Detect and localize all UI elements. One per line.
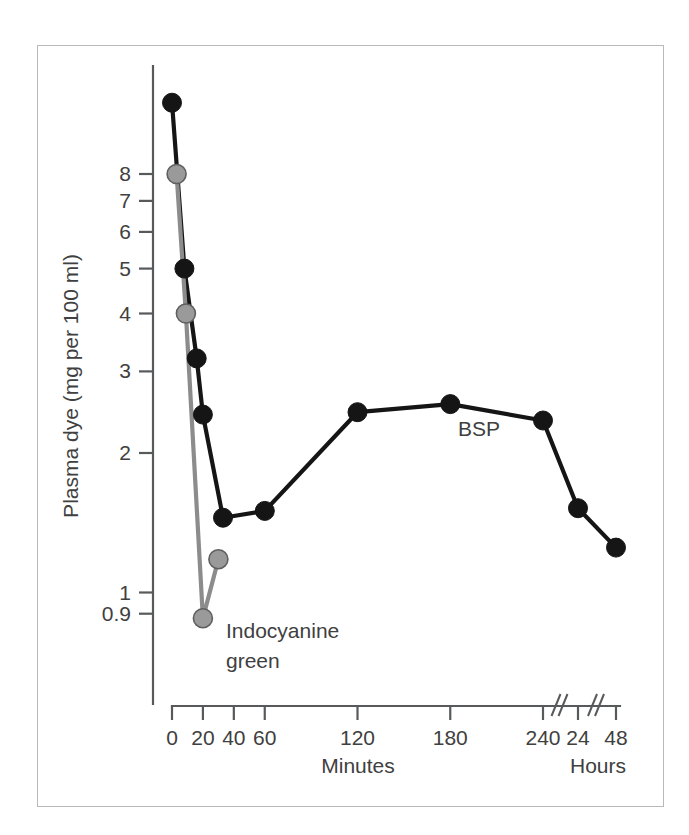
data-point-bsp-4	[214, 508, 233, 527]
x-tick-label-0: 0	[166, 726, 178, 749]
chart-plot-area: 876543210.9 02040601201802402448 BSP Ind…	[38, 46, 665, 808]
x-tick-label-120: 120	[340, 726, 375, 749]
x-tick-label-180: 180	[433, 726, 468, 749]
data-series-layer	[163, 93, 626, 628]
x-tick-label-24: 24	[566, 726, 590, 749]
series-label-indocyanine-green-line2: green	[226, 649, 280, 672]
data-point-bsp-2	[187, 349, 206, 368]
series-line-bsp	[172, 103, 616, 548]
data-point-bsp-7	[441, 395, 460, 414]
series-label-indocyanine-green-line1: Indocyanine	[226, 619, 339, 642]
y-axis-ticks: 876543210.9	[102, 162, 153, 625]
y-tick-label-8: 8	[119, 162, 131, 185]
data-point-indocyanine-green-0	[167, 165, 186, 184]
x-axis-title: Minutes	[321, 754, 395, 777]
data-point-indocyanine-green-1	[176, 304, 195, 323]
x-tick-label-40: 40	[222, 726, 245, 749]
data-point-bsp-3	[193, 405, 212, 424]
y-tick-label-0.9: 0.9	[102, 602, 131, 625]
data-point-bsp-9	[569, 499, 588, 518]
data-point-bsp-8	[534, 411, 553, 430]
data-point-indocyanine-green-2	[193, 609, 212, 628]
x-tick-label-20: 20	[191, 726, 214, 749]
data-point-bsp-6	[348, 403, 367, 422]
series-label-bsp: BSP	[458, 417, 500, 440]
x-tick-label-60: 60	[253, 726, 276, 749]
y-tick-label-5: 5	[119, 257, 131, 280]
y-axis-title: Plasma dye (mg per 100 ml)	[59, 254, 82, 518]
x-axis-title-secondary: Hours	[570, 754, 626, 777]
x-tick-label-48: 48	[604, 726, 627, 749]
data-point-indocyanine-green-3	[209, 550, 228, 569]
y-tick-label-2: 2	[119, 441, 131, 464]
data-point-bsp-5	[255, 501, 274, 520]
data-point-bsp-10	[607, 538, 626, 557]
axis-group	[153, 66, 620, 706]
x-axis-ticks: 02040601201802402448	[166, 706, 628, 749]
y-tick-label-4: 4	[119, 302, 131, 325]
data-point-bsp-1	[175, 259, 194, 278]
y-tick-label-7: 7	[119, 189, 131, 212]
data-point-bsp-0	[163, 93, 182, 112]
y-tick-label-6: 6	[119, 220, 131, 243]
x-tick-label-240: 240	[525, 726, 560, 749]
y-tick-label-1: 1	[119, 581, 131, 604]
figure-frame: 876543210.9 02040601201802402448 BSP Ind…	[37, 45, 664, 807]
y-tick-label-3: 3	[119, 359, 131, 382]
